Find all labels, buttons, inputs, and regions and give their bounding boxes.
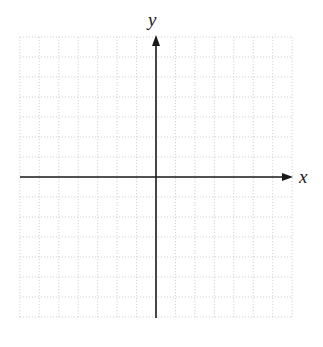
coordinate-plane: x y (0, 0, 323, 347)
y-axis-label: y (146, 9, 157, 30)
x-axis-label: x (298, 166, 308, 187)
axes (20, 35, 293, 318)
x-axis-arrow-icon (282, 173, 293, 181)
